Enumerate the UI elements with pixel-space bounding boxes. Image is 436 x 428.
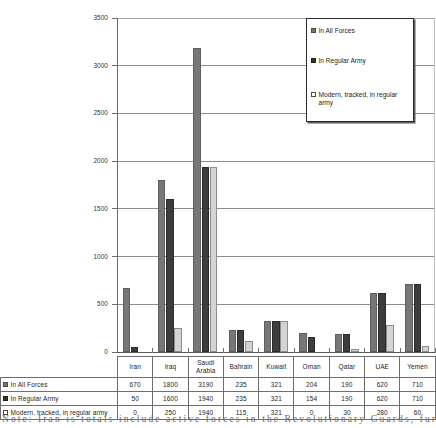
table-column-header-yemen: Yemen (400, 357, 435, 378)
x-tick-oman (329, 348, 330, 353)
table-cell-in-regular-army-qatar: 190 (329, 392, 364, 406)
bar-iraq-in-regular-army (166, 199, 174, 352)
table-cell-in-all-forces-qatar: 190 (329, 378, 364, 392)
table-row: In Regular Army5016001940235321154190620… (1, 392, 436, 406)
x-tick-iran (152, 348, 153, 353)
table-cell-in-all-forces-bahrain: 235 (223, 378, 258, 392)
y-axis-label-1000: 1000 (78, 253, 108, 260)
legend-item-in-regular-army: In Regular Army (311, 57, 413, 65)
bar-saudi-arabia-in-all-forces (193, 48, 201, 352)
legend-swatch-modern-tracked (311, 92, 316, 97)
table-cell-in-all-forces-iraq: 1800 (153, 378, 188, 392)
x-tick-uae (400, 348, 401, 353)
bar-yemen-modern-tracked-in-regular-army (422, 346, 430, 352)
table-cell-in-all-forces-yemen: 710 (400, 378, 435, 392)
table-cell-in-regular-army-uae: 620 (365, 392, 400, 406)
table-column-header-kuwait: Kuwait (259, 357, 294, 378)
bar-group-iran (117, 18, 152, 352)
legend-label-modern-tracked: Modern, tracked, in regular army (319, 91, 414, 107)
x-axis-baseline (117, 352, 435, 353)
table-row-label: In All Forces (11, 381, 48, 388)
x-tick-saudi-arabia (223, 348, 224, 353)
bar-iran-in-regular-army (131, 347, 139, 352)
y-axis-label-2500: 2500 (78, 109, 108, 116)
bar-group-bahrain (223, 18, 258, 352)
table-cell-in-all-forces-kuwait: 321 (259, 378, 294, 392)
bar-group-saudi-arabia (188, 18, 223, 352)
table-swatch-in-regular-army (3, 396, 8, 401)
table-header-row: IranIraqSaudi ArabiaBahrainKuwaitOmanQat… (1, 357, 436, 378)
bar-qatar-in-all-forces (335, 334, 343, 352)
table-column-header-qatar: Qatar (329, 357, 364, 378)
table-cell-in-regular-army-oman: 154 (294, 392, 329, 406)
x-tick-qatar (364, 348, 365, 353)
table-cell-in-regular-army-kuwait: 321 (259, 392, 294, 406)
bar-kuwait-in-regular-army (272, 321, 280, 352)
table-row-header-in-all-forces: In All Forces (1, 378, 118, 392)
bar-iraq-in-all-forces (158, 180, 166, 352)
table-swatch-in-all-forces (3, 382, 8, 387)
table-column-header-iran: Iran (118, 357, 153, 378)
bar-yemen-in-all-forces (405, 284, 413, 352)
y-axis-label-3000: 3000 (78, 62, 108, 69)
bar-bahrain-in-regular-army (237, 330, 245, 352)
bar-oman-in-all-forces (299, 333, 307, 352)
x-tick-kuwait (294, 348, 295, 353)
table-cell-in-all-forces-saudi-arabia: 3190 (188, 378, 223, 392)
legend-swatch-in-all-forces (311, 28, 316, 33)
bar-saudi-arabia-in-regular-army (202, 167, 210, 352)
table-row-label: In Regular Army (11, 395, 59, 402)
bar-qatar-modern-tracked-in-regular-army (351, 349, 359, 352)
table-column-header-bahrain: Bahrain (223, 357, 258, 378)
legend-swatch-in-regular-army (311, 58, 316, 63)
legend-label-in-all-forces: In All Forces (319, 27, 355, 35)
bar-uae-in-all-forces (370, 293, 378, 352)
bar-uae-in-regular-army (378, 293, 386, 352)
table-cell-in-all-forces-uae: 620 (365, 378, 400, 392)
table-row: In All Forces670180031902353212041906207… (1, 378, 436, 392)
bar-oman-in-regular-army (308, 337, 316, 352)
bar-kuwait-modern-tracked-in-regular-army (280, 321, 288, 352)
table-column-header-uae: UAE (365, 357, 400, 378)
bar-bahrain-in-all-forces (229, 330, 237, 352)
y-axis-label-500: 500 (78, 300, 108, 307)
table-column-header-saudi-arabia: Saudi Arabia (188, 357, 223, 378)
table-cell-in-all-forces-iran: 670 (118, 378, 153, 392)
bar-iran-in-all-forces (123, 288, 131, 352)
table-cell-in-regular-army-iraq: 1600 (153, 392, 188, 406)
table-cell-in-all-forces-oman: 204 (294, 378, 329, 392)
bar-yemen-in-regular-army (414, 284, 422, 352)
table-column-header-oman: Oman (294, 357, 329, 378)
figure-note: Note: Iran is totals include active forc… (2, 414, 435, 428)
x-tick-iraq (188, 348, 189, 353)
bar-qatar-in-regular-army (343, 334, 351, 352)
x-tick-bahrain (258, 348, 259, 353)
bar-bahrain-modern-tracked-in-regular-army (245, 341, 253, 352)
table-cell-in-regular-army-bahrain: 235 (223, 392, 258, 406)
table-cell-in-regular-army-saudi-arabia: 1940 (188, 392, 223, 406)
table-column-header-iraq: Iraq (153, 357, 188, 378)
table-row-header-in-regular-army: In Regular Army (1, 392, 118, 406)
legend-item-in-all-forces: In All Forces (311, 27, 413, 35)
y-axis-label-2000: 2000 (78, 157, 108, 164)
table-cell-in-regular-army-yemen: 710 (400, 392, 435, 406)
bar-group-iraq (152, 18, 187, 352)
y-axis-label-0: 0 (78, 348, 108, 355)
table-cell-in-regular-army-iran: 50 (118, 392, 153, 406)
bar-saudi-arabia-modern-tracked-in-regular-army (210, 167, 218, 352)
chart-legend: In All Forces In Regular Army Modern, tr… (306, 18, 414, 122)
legend-item-modern-tracked: Modern, tracked, in regular army (311, 91, 413, 107)
data-table: IranIraqSaudi ArabiaBahrainKuwaitOmanQat… (0, 356, 436, 420)
legend-label-in-regular-army: In Regular Army (319, 57, 366, 65)
bar-iraq-modern-tracked-in-regular-army (174, 328, 182, 352)
y-axis-label-3500: 3500 (78, 14, 108, 21)
bar-kuwait-in-all-forces (264, 321, 272, 352)
bar-uae-modern-tracked-in-regular-army (386, 325, 394, 352)
y-axis-label-1500: 1500 (78, 205, 108, 212)
bar-group-kuwait (258, 18, 293, 352)
table-corner-cell (1, 357, 118, 378)
bar-chart: 0500100015002000250030003500 In All Forc… (0, 0, 435, 356)
